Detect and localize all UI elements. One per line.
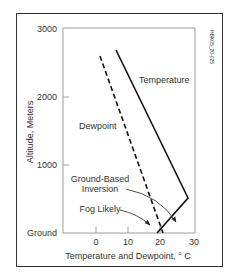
fog-label: Fog Likely bbox=[79, 204, 121, 214]
y-tick-ground: Ground bbox=[27, 228, 57, 238]
inversion-arrow bbox=[126, 189, 176, 222]
figure-id: HBK05_20-025 bbox=[209, 30, 215, 64]
y-tick-2000: 2000 bbox=[37, 92, 57, 102]
inversion-label-2: Inversion bbox=[82, 184, 119, 194]
x-tick-0: 0 bbox=[93, 237, 98, 247]
y-axis-label: Altitude, Meters bbox=[25, 100, 35, 163]
x-axis-label: Temperature and Dewpoint, ° C bbox=[65, 251, 191, 261]
fog-arrow bbox=[120, 210, 150, 225]
dewpoint-label: Dewpoint bbox=[79, 121, 117, 131]
inversion-label-1: Ground-Based bbox=[71, 174, 130, 184]
y-tick-1000: 1000 bbox=[37, 160, 57, 170]
x-tick-20: 20 bbox=[155, 237, 165, 247]
y-tick-3000: 3000 bbox=[37, 24, 57, 34]
chart: 3000 2000 1000 Ground 0 10 20 30 Tempera… bbox=[0, 0, 234, 276]
x-tick-30: 30 bbox=[189, 237, 199, 247]
x-tick-10: 10 bbox=[123, 237, 133, 247]
temperature-label: Temperature bbox=[139, 75, 190, 85]
